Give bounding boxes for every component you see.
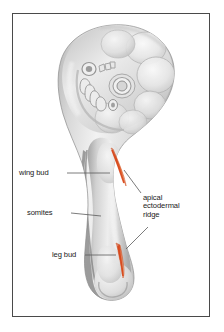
- label-leg-bud: leg bud: [52, 251, 76, 259]
- label-somites: somites: [27, 209, 52, 217]
- label-wing-bud: wing bud: [19, 169, 49, 177]
- figure-frame: [12, 13, 210, 317]
- figure-root: wing bud somites leg bud apical ectoderm…: [0, 0, 224, 332]
- label-apical-ectodermal-ridge: apical ectodermal ridge: [143, 194, 195, 219]
- label-aer-line-3: ridge: [143, 210, 159, 219]
